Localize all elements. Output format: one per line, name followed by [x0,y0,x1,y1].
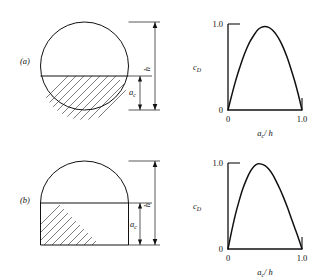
dimension-ac-b-label: ac [130,219,137,230]
chart-a-xtick-left: 0 [226,114,230,124]
chart-b-xlabel-suffix: / h [263,267,273,277]
flow-area-hatch-b [10,205,144,278]
chart-a-ylabel-subscript: D [196,67,202,73]
dimension-ac-a: ac [129,76,142,110]
dimension-h-a-label: h [142,67,152,71]
chart-a-ylabel: cD [193,62,202,73]
chart-a-xlabel-suffix: / h [263,128,273,138]
chart-b-axes [228,163,302,249]
panel-a-diagram: h ac [0,0,180,139]
chart-b-ylabel-subscript: D [196,206,202,212]
chart-b-ylabel: cD [193,201,202,212]
panel-b-diagram: h ac [0,139,180,278]
chart-b-xtick-right: 1.0 [297,253,308,263]
dimension-ac-a-label: ac [129,87,136,98]
dimension-h-b-label: h [142,203,152,207]
chart-a-curve [228,27,302,110]
chart-a-ytick-top: 1.0 [212,19,223,29]
dimension-h-b: h [142,161,157,245]
chart-a-ytick-bottom: 0 [219,105,223,115]
panel-b: (b) [0,139,327,278]
dimension-ac-a-subscript: c [133,92,136,98]
chart-b-ytick-top: 1.0 [212,158,223,168]
dimension-h-a: h [142,22,157,110]
dimension-ac-b-subscript: c [134,224,137,230]
chart-b-ytick-bottom: 0 [219,244,223,254]
panel-b-chart: cD 1.0 0 0 1.0 ac/ h [180,139,327,278]
chart-b-xlabel: ac/ h [257,267,273,278]
chart-b-xtick-left: 0 [226,253,230,263]
dimension-ac-b: ac [130,203,142,245]
conduit-outline-circle [41,22,129,110]
panel-a: (a) [0,0,327,139]
chart-b-curve [228,164,302,249]
panel-a-chart: cD 1.0 0 0 1.0 ac/ h [180,0,327,139]
chart-a-xlabel: ac/ h [257,128,273,139]
chart-a-xtick-right: 1.0 [297,114,308,124]
